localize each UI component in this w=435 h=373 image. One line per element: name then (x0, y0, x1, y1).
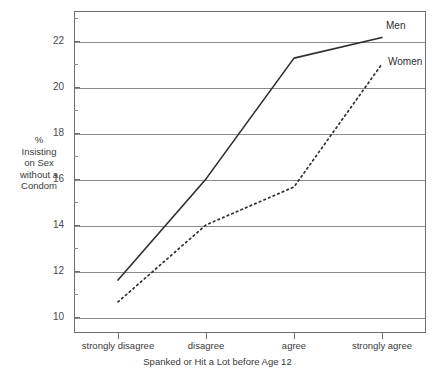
series-line-women (118, 64, 382, 302)
series-label-men: Men (386, 20, 405, 31)
series-line-men (118, 37, 382, 280)
series-layer (0, 0, 435, 373)
chart-figure: 10121416182022 % Insisting on Sex withou… (0, 0, 435, 373)
series-label-women: Women (388, 56, 422, 67)
